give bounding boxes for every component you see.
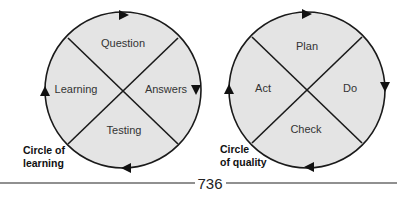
segment-label-top: Plan (296, 40, 318, 52)
segment-label-left: Act (255, 82, 271, 94)
caption-line-2: of quality (220, 156, 267, 168)
segment-label-right: Answers (145, 83, 188, 95)
caption-line-1: Circle (220, 143, 249, 155)
segment-label-right: Do (343, 82, 357, 94)
segment-label-bottom: Testing (107, 124, 142, 136)
page-number: 736 (197, 175, 222, 192)
circle-of-learning: Question Answers Testing Learning Circle… (23, 10, 201, 173)
caption-line-1: Circle of (23, 144, 66, 156)
caption-line-2: learning (23, 157, 64, 169)
diagram-canvas: Question Answers Testing Learning Circle… (0, 0, 397, 201)
circle-of-quality: Plan Do Check Act Circle of quality (220, 9, 390, 172)
segment-label-left: Learning (55, 83, 98, 95)
segment-label-bottom: Check (290, 123, 322, 135)
segment-label-top: Question (101, 37, 145, 49)
